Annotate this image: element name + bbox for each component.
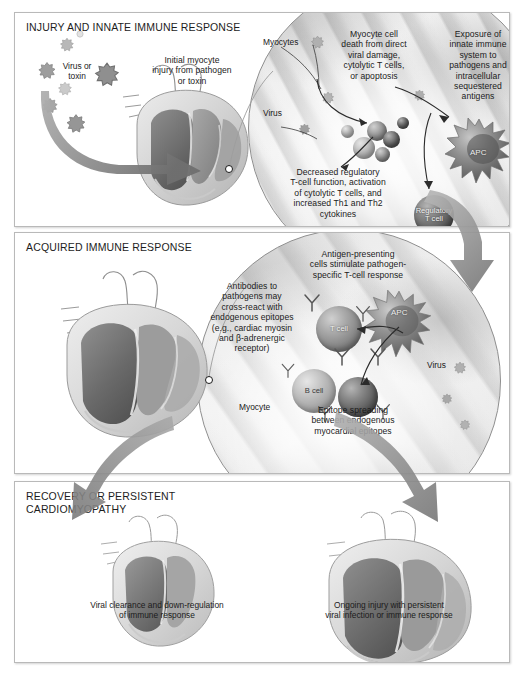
panel-injury-and-innate-immune-response: APC Regulatory T cell — [14, 12, 510, 227]
cell-debris — [375, 147, 390, 162]
cell-debris — [353, 137, 375, 159]
virus-particle-icon — [321, 91, 335, 105]
panel-recovery-or-persistent-cardiomyopathy: RECOVERY OR PERSISTENT CARDIOMYOPATHY Vi… — [14, 481, 510, 663]
callout-marker-dot — [205, 376, 213, 384]
panel-acquired-immune-response: T cell B cell APC — [14, 232, 510, 474]
myocarditis-pathogenesis-figure: APC Regulatory T cell — [0, 0, 525, 676]
label-virus-innate: Virus — [263, 109, 282, 119]
regulatory-t-cell: Regulatory T cell — [414, 195, 454, 227]
caption-viral-clearance: Viral clearance and down-regulation of i… — [59, 600, 255, 620]
virus-particle-icon — [441, 393, 453, 405]
t-cell-label: T cell — [330, 325, 348, 333]
virus-particle-icon — [310, 35, 325, 50]
virus-particle-icon — [57, 81, 73, 97]
virus-particle-icon — [41, 97, 59, 115]
virus-particle-icon — [413, 89, 426, 102]
apc-label-acquired: APC — [391, 308, 407, 318]
virus-particle-icon — [59, 37, 75, 53]
t-cell: T cell — [316, 306, 362, 352]
apc-label-innate: APC — [470, 148, 486, 158]
callout-exposure-innate-immune: Exposure of innate immune system to path… — [436, 29, 510, 102]
cell-debris — [383, 131, 400, 148]
virus-particle-icon — [459, 419, 471, 431]
virus-particle-icon — [65, 113, 87, 135]
b-cell-label: B cell — [305, 387, 324, 395]
callout-antigen-presenting-cells: Antigen-presenting cells stimulate patho… — [287, 249, 429, 280]
cell-debris — [341, 125, 354, 138]
regulatory-t-cell-label: Regulatory T cell — [414, 207, 454, 224]
heart-illustration-dilated — [301, 506, 491, 663]
panel-title-acquired: ACQUIRED IMMUNE RESPONSE — [26, 241, 192, 254]
callout-epitope-spreading: Epitope spreading between endogenous myo… — [288, 405, 418, 436]
caption-ongoing-injury: Ongoing injury with persistent viral inf… — [291, 600, 487, 620]
panel-title-injury: INJURY AND INNATE IMMUNE RESPONSE — [26, 21, 240, 34]
callout-initial-myocyte-injury: Initial myocyte injury from pathogen or … — [137, 55, 247, 86]
virus-particle-icon — [298, 123, 311, 136]
label-myocyte: Myocyte — [239, 403, 270, 413]
callout-antibodies-cross-react: Antibodies to pathogens may cross-react … — [193, 281, 311, 354]
label-virus-or-toxin: Virus or toxin — [53, 62, 101, 81]
cell-debris — [397, 117, 409, 129]
panel-title-recovery: RECOVERY OR PERSISTENT CARDIOMYOPATHY — [26, 490, 175, 515]
label-virus-acquired: Virus — [427, 361, 446, 371]
label-myocytes: Myocytes — [263, 38, 298, 48]
callout-marker-dot — [225, 165, 233, 173]
apc-cell-acquired — [361, 285, 437, 365]
callout-decreased-regulatory-t-cell: Decreased regulatory T-cell function, ac… — [264, 167, 412, 219]
callout-myocyte-cell-death: Myocyte cell death from direct viral dam… — [326, 29, 422, 81]
heart-illustration-recovered — [75, 510, 245, 660]
virus-particle-icon — [453, 361, 467, 375]
